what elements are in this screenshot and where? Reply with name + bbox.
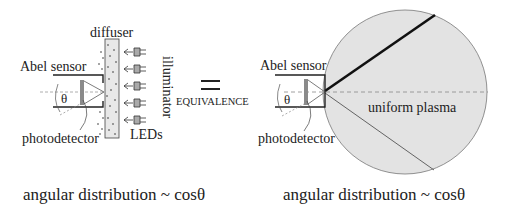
led-icon [124,48,146,56]
photodetector-label-left: photodetector [22,131,99,146]
theta-label-right: θ [284,92,290,107]
equivalence-label: EQUIVALENCE [176,96,249,107]
led-array [124,48,146,124]
theta-arc-right [277,84,282,112]
led-icon [124,65,146,73]
illuminator-label: illuminator [160,56,175,119]
caption-left: angular distribution ~ cosθ [23,185,205,204]
led-icon [124,82,146,90]
diffuser-plate [105,39,119,138]
photodetector-label-right: photodetector [258,131,335,146]
theta-arc-left [55,84,60,112]
uniform-plasma-circle [284,10,488,174]
sensor-housing-top [53,75,103,83]
led-icon [124,99,146,107]
theta-label-left: θ [61,91,67,106]
diffuser [97,39,119,138]
led-icon [124,116,146,124]
photodetector-leader-right [304,101,311,131]
diffuser-label: diffuser [90,25,134,40]
caption-right: angular distribution ~ cosθ [283,185,465,204]
leds-label: LEDs [130,127,163,142]
view-cone-left [84,81,104,104]
sensor-housing-right [275,75,325,107]
left-sensor-setup [40,75,106,130]
uniform-plasma-label: uniform plasma [368,100,457,115]
equivalence-diagram: diffuser Abel sensor θ photodetector LED… [0,0,505,214]
equals-sign [201,80,220,90]
abel-sensor-label-left: Abel sensor [20,59,87,74]
right-sensor-setup [275,75,325,131]
abel-sensor-label-right: Abel sensor [260,58,327,73]
